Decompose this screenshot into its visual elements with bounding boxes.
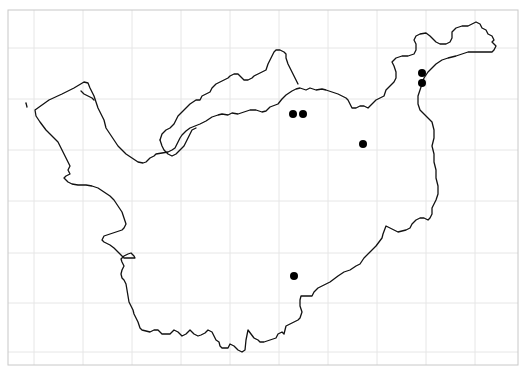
map-point-marker[interactable]: [418, 79, 426, 87]
map-frame: [8, 10, 518, 365]
map-point-marker[interactable]: [299, 110, 307, 118]
map-point-marker[interactable]: [359, 140, 367, 148]
map-point-marker[interactable]: [290, 272, 298, 280]
map-point-marker[interactable]: [418, 69, 426, 77]
map-point-marker[interactable]: [289, 110, 297, 118]
data-points: [289, 69, 426, 280]
map-container: [0, 0, 524, 373]
map-canvas[interactable]: [0, 0, 524, 373]
islet: [26, 103, 27, 107]
graticule-grid: [8, 10, 518, 365]
